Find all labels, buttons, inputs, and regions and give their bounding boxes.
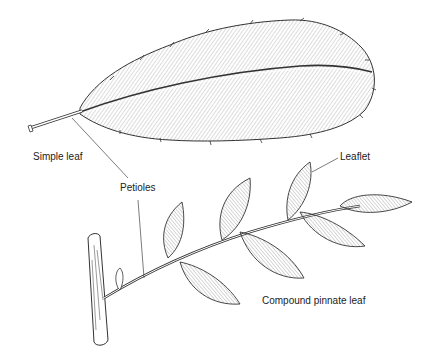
leaf-diagram: Simple leaf Petioles Leaflet Compound pi… [0, 0, 433, 359]
leaflet-label: Leaflet [340, 152, 370, 162]
petioles-label: Petioles [120, 183, 156, 193]
leaf-illustration [0, 0, 433, 359]
compound-pinnate-leaf-label: Compound pinnate leaf [262, 296, 365, 306]
simple-leaf-label: Simple leaf [33, 152, 82, 162]
simple-leaf [28, 18, 376, 145]
